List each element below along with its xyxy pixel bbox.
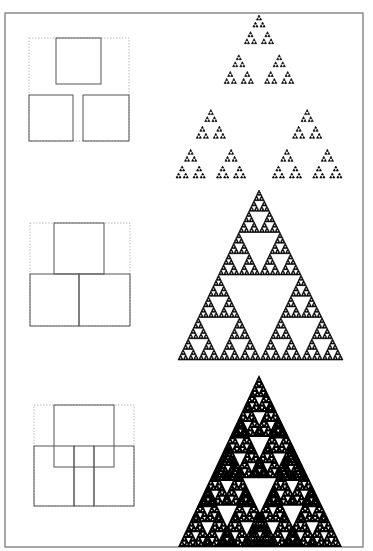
figure-canvas [0,0,373,551]
